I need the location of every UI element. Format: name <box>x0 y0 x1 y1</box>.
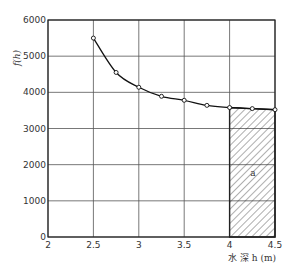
data-point-marker <box>205 103 209 107</box>
data-point-marker <box>137 85 141 89</box>
data-point-marker <box>91 36 95 40</box>
y-axis-label: f(h) <box>12 49 22 67</box>
data-point-marker <box>114 70 118 74</box>
x-axis-label: 水 深 h (m) <box>228 252 276 263</box>
x-tick-label: 4 <box>227 240 233 250</box>
data-point-marker <box>160 94 164 98</box>
area-label: a <box>250 168 256 178</box>
data-point-marker <box>273 108 277 112</box>
y-axis-ticks: 0100020003000400050006000 <box>23 15 46 242</box>
x-tick-label: 2.5 <box>86 240 100 250</box>
y-tick-label: 4000 <box>23 87 46 97</box>
y-tick-label: 2000 <box>23 160 46 170</box>
x-tick-label: 3 <box>136 240 142 250</box>
data-point-marker <box>250 107 254 111</box>
y-tick-label: 3000 <box>23 124 46 134</box>
x-tick-label: 2 <box>45 240 51 250</box>
x-axis-ticks: 22.533.544.5 <box>45 240 282 250</box>
y-tick-label: 6000 <box>23 15 46 25</box>
data-point-marker <box>182 98 186 102</box>
chart: 0100020003000400050006000 22.533.544.5 f… <box>0 0 293 270</box>
data-point-marker <box>228 106 232 110</box>
x-tick-label: 4.5 <box>268 240 282 250</box>
y-tick-label: 1000 <box>23 196 46 206</box>
x-tick-label: 3.5 <box>177 240 191 250</box>
y-tick-label: 5000 <box>23 51 46 61</box>
